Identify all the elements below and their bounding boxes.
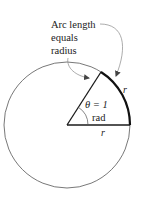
base-radius-label: r (101, 127, 105, 138)
arrow-to-arc (100, 24, 123, 76)
theta-label: θ = 1 (85, 99, 108, 110)
unit-label: rad (92, 112, 106, 123)
annotation-line-3: radius (51, 45, 77, 56)
radian-diagram: Arc length equals radius θ = 1 rad r r (0, 0, 147, 197)
annotation-line-2: equals (51, 32, 78, 43)
arrow-to-radius (68, 58, 89, 78)
annotation-line-1: Arc length (51, 19, 96, 30)
arc-radius-label: r (123, 84, 127, 95)
